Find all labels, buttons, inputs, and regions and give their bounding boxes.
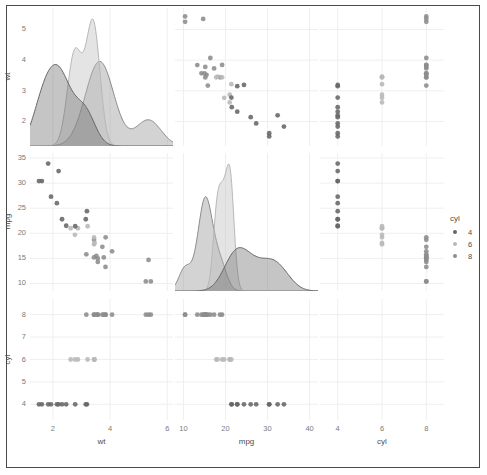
x-axis-title-wt: wt	[30, 437, 173, 446]
panel-cyl-vs-cyl	[320, 299, 444, 420]
y-tick-label: 4	[6, 399, 26, 408]
pairs-plot-figure: 2345wt101520253035mpg45678cyl246wt102030…	[0, 0, 487, 475]
y-tick-label: 15	[6, 253, 26, 262]
y-tick-label: 5	[6, 24, 26, 33]
legend-swatch-icon	[449, 242, 461, 246]
panel-cyl-vs-wt	[30, 299, 173, 420]
panel-cyl-vs-mpg	[175, 299, 318, 420]
x-tick-label: 6	[370, 424, 394, 433]
panel-wt-vs-mpg	[175, 8, 318, 146]
x-axis-title-mpg: mpg	[175, 437, 318, 446]
legend-label: 4	[468, 228, 472, 237]
x-tick-label: 10	[171, 424, 195, 433]
legend-title: cyl	[450, 214, 485, 223]
panel-mpg-vs-wt	[30, 153, 173, 291]
panel-wt-vs-wt	[30, 8, 173, 146]
legend-label: 6	[468, 240, 472, 249]
x-tick-label: 30	[256, 424, 280, 433]
x-tick-label: 4	[326, 424, 350, 433]
x-tick-label: 40	[298, 424, 322, 433]
legend: cyl 4 6 8	[449, 214, 485, 262]
x-tick-label: 2	[41, 424, 65, 433]
y-axis-title-mpg: mpg	[3, 209, 12, 235]
x-tick-label: 4	[98, 424, 122, 433]
plot-area: 2345wt101520253035mpg45678cyl246wt102030…	[0, 0, 487, 475]
y-tick-label: 10	[6, 278, 26, 287]
y-tick-label: 8	[6, 310, 26, 319]
panel-mpg-vs-cyl	[320, 153, 444, 291]
panel-mpg-vs-mpg	[175, 153, 318, 291]
legend-label: 8	[468, 252, 472, 261]
y-tick-label: 5	[6, 377, 26, 386]
y-tick-label: 35	[6, 153, 26, 162]
legend-item-6[interactable]: 6	[449, 238, 485, 250]
y-tick-label: 2	[6, 116, 26, 125]
legend-swatch-icon	[449, 230, 461, 234]
legend-item-8[interactable]: 8	[449, 250, 485, 262]
x-axis-title-cyl: cyl	[320, 437, 444, 446]
y-tick-label: 7	[6, 332, 26, 341]
y-axis-title-cyl: cyl	[3, 346, 12, 372]
panel-wt-vs-cyl	[320, 8, 444, 146]
legend-swatch-icon	[449, 254, 461, 258]
x-tick-label: 8	[414, 424, 438, 433]
legend-item-4[interactable]: 4	[449, 226, 485, 238]
y-tick-label: 30	[6, 178, 26, 187]
x-tick-label: 20	[213, 424, 237, 433]
y-axis-title-wt: wt	[3, 64, 12, 90]
